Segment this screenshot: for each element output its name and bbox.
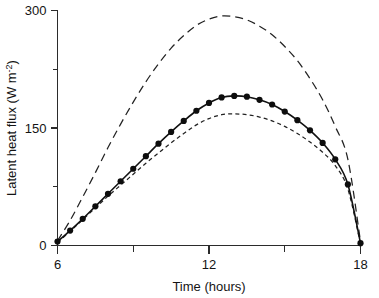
- data-point-marker: [294, 117, 300, 123]
- data-point-marker: [244, 94, 250, 100]
- y-axis-ticks: [51, 11, 58, 246]
- data-point-marker: [231, 93, 237, 99]
- data-point-marker: [168, 129, 174, 135]
- series-lower-short-dashed: [58, 114, 361, 244]
- data-point-marker: [282, 108, 288, 114]
- x-axis-title: Time (hours): [172, 279, 245, 294]
- data-point-marker: [206, 100, 212, 106]
- data-point-marker: [80, 216, 86, 222]
- x-axis-tick-labels: 61218: [54, 257, 368, 272]
- data-point-marker: [357, 240, 363, 246]
- x-axis-ticks: [58, 246, 361, 254]
- data-point-marker: [67, 228, 73, 234]
- x-tick-label: 12: [202, 257, 216, 272]
- x-tick-label: 18: [353, 257, 367, 272]
- data-point-marker: [320, 140, 326, 146]
- y-tick-label: 0: [39, 238, 46, 253]
- data-point-marker: [193, 108, 199, 114]
- chart-figure: 0150300 61218 Latent heat flux (W m-2) T…: [0, 0, 379, 298]
- y-tick-label: 300: [25, 3, 47, 18]
- data-point-marker: [256, 97, 262, 103]
- data-point-marker: [181, 118, 187, 124]
- data-point-marker: [219, 94, 225, 100]
- data-point-marker: [92, 203, 98, 209]
- data-point-marker: [345, 181, 351, 187]
- data-point-marker: [307, 127, 313, 133]
- latent-heat-flux-line-chart: 0150300 61218 Latent heat flux (W m-2) T…: [0, 0, 379, 298]
- data-point-marker: [332, 156, 338, 162]
- y-axis-tick-labels: 0150300: [25, 3, 47, 253]
- data-point-marker: [118, 178, 124, 184]
- data-point-marker: [155, 141, 161, 147]
- series-group: [54, 16, 363, 246]
- data-point-marker: [130, 166, 136, 172]
- data-point-marker: [143, 153, 149, 159]
- series-measured-markers: [54, 93, 363, 246]
- series-upper-long-dashed: [58, 16, 361, 242]
- data-point-marker: [269, 101, 275, 107]
- y-tick-label: 150: [25, 121, 47, 136]
- y-axis-title: Latent heat flux (W m-2): [4, 60, 19, 196]
- data-point-marker: [105, 191, 111, 197]
- data-point-marker: [54, 238, 60, 244]
- x-tick-label: 6: [54, 257, 61, 272]
- axes-group: [51, 11, 361, 254]
